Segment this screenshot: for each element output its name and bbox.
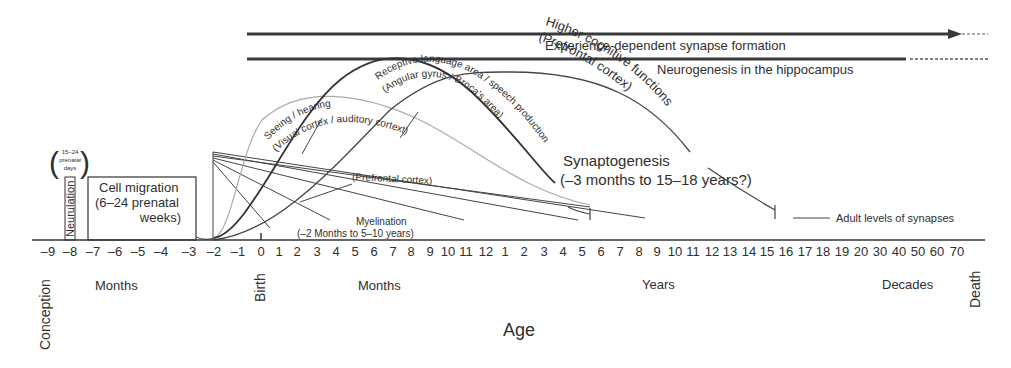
tick-label: 10: [668, 244, 682, 259]
tick-label: 5: [351, 244, 358, 259]
tick-label: 8: [407, 244, 414, 259]
tick-label: 6: [597, 244, 604, 259]
cell-migration-label: (6–24 prenatal: [95, 195, 179, 210]
tick-label: 3: [313, 244, 320, 259]
tick-label: 40: [892, 244, 906, 259]
tick-label: –8: [63, 244, 77, 259]
synaptogenesis-range: (–3 months to 15–18 years?): [560, 171, 752, 188]
tick-label: 6: [370, 244, 377, 259]
death-label: Death: [967, 271, 983, 308]
tick-label: 16: [779, 244, 793, 259]
tick-label: 9: [653, 244, 660, 259]
tick-label: 4: [559, 244, 566, 259]
tick-label: 60: [930, 244, 944, 259]
tick-label: 17: [798, 244, 812, 259]
tick-label: –9: [41, 244, 55, 259]
tick-label: 15: [760, 244, 774, 259]
tick-label: 30: [873, 244, 887, 259]
tick-label: 1: [275, 244, 282, 259]
tick-label: –1: [231, 244, 245, 259]
tick-label: 4: [332, 244, 339, 259]
tick-label: 10: [441, 244, 455, 259]
months-prenatal-label: Months: [95, 278, 138, 293]
conception-label: Conception: [37, 279, 53, 350]
tick-label: –7: [86, 244, 100, 259]
brain-development-timeline: Experience-dependent synapse formation N…: [0, 0, 1011, 368]
birth-label: Birth: [252, 273, 268, 302]
prefrontal-myelination-label: (Prefrontal cortex): [352, 171, 433, 186]
tick-label: 2: [293, 244, 300, 259]
tick-label: 0: [257, 244, 264, 259]
paren-right: ): [80, 146, 90, 179]
tick-label: 7: [616, 244, 623, 259]
tick-label: –4: [154, 244, 168, 259]
years-label: Years: [642, 277, 675, 292]
tick-label: 5: [578, 244, 585, 259]
tick-label: 1: [501, 244, 508, 259]
myelination-range: (–2 Months to 5–10 years): [297, 228, 414, 239]
tick-label: 9: [426, 244, 433, 259]
cell-migration-block: Cell migration (6–24 prenatal weeks): [88, 177, 196, 240]
neurogenesis-label: Neurogenesis in the hippocampus: [657, 62, 854, 77]
tick-label: 19: [835, 244, 849, 259]
myelination-label: Myelination: [356, 216, 407, 227]
neurulation-label: Neurulation: [64, 181, 76, 237]
tick-label: –6: [108, 244, 122, 259]
decades-label: Decades: [882, 277, 934, 292]
neurulation-note: days: [64, 165, 77, 171]
adult-levels-label: Adult levels of synapses: [836, 212, 955, 224]
synaptogenesis-label: Synaptogenesis: [563, 152, 670, 169]
tick-label: 12: [479, 244, 493, 259]
tick-label: 13: [723, 244, 737, 259]
tick-label: 70: [950, 244, 964, 259]
tick-label: –5: [131, 244, 145, 259]
x-axis-title: Age: [503, 320, 535, 340]
tick-label: 7: [389, 244, 396, 259]
tick-label: 14: [742, 244, 756, 259]
tick-label: 20: [854, 244, 868, 259]
cell-migration-label: weeks): [139, 210, 181, 225]
tick-label: 8: [635, 244, 642, 259]
tick-label: 12: [705, 244, 719, 259]
tick-label: 11: [459, 244, 473, 259]
tick-label: 2: [520, 244, 527, 259]
tick-labels: –9–8–7–6–5–4–3–2–10123456789101112123456…: [41, 244, 964, 259]
tick-label: 50: [911, 244, 925, 259]
tick-label: –3: [182, 244, 196, 259]
neurulation-block: Neurulation ( ) 15–24 prenatal days: [49, 146, 90, 240]
months-postnatal-label: Months: [358, 278, 401, 293]
neurulation-note: 15–24: [62, 149, 79, 155]
tick-label: 18: [816, 244, 830, 259]
paren-left: (: [49, 146, 59, 179]
tick-label: 3: [540, 244, 547, 259]
neurulation-note: prenatal: [59, 157, 81, 163]
cell-migration-label: Cell migration: [99, 180, 178, 195]
baseline-bump: [196, 237, 214, 239]
tick-label: 11: [686, 244, 700, 259]
tick-label: –2: [207, 244, 221, 259]
